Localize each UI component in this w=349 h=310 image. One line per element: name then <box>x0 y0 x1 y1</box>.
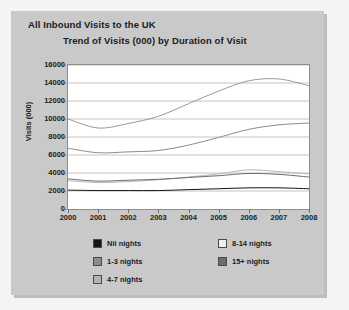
legend-label: 1-3 nights <box>107 258 142 266</box>
x-axis-tick <box>189 209 190 213</box>
x-axis-tick-label: 2006 <box>240 213 257 222</box>
x-axis-tick <box>219 209 220 213</box>
series-line <box>68 188 309 191</box>
x-axis-tick-label: 2000 <box>60 213 77 222</box>
y-axis-tick <box>61 155 66 156</box>
y-axis-tick <box>61 137 66 138</box>
screenshot-root: All Inbound Visits to the UK Trend of Vi… <box>0 0 349 310</box>
x-axis-tick-label: 2007 <box>271 213 288 222</box>
series-lines <box>68 65 309 209</box>
x-axis-tick-label: 2003 <box>150 213 167 222</box>
x-axis-tick-labels: 200020012002200320042005200620072008 <box>67 213 310 227</box>
series-line <box>68 79 309 129</box>
y-axis-tick <box>61 209 66 210</box>
x-axis-tick <box>279 209 280 213</box>
legend-swatch <box>93 257 102 266</box>
legend-item[interactable]: 1-3 nights <box>93 257 142 266</box>
x-axis-tick-label: 2002 <box>120 213 137 222</box>
x-axis-tick-label: 2004 <box>180 213 197 222</box>
chart-legend: Nil nights1-3 nights4-7 nights8-14 night… <box>11 233 324 291</box>
y-axis-tick <box>61 119 66 120</box>
legend-swatch <box>93 239 102 248</box>
x-axis-tick-label: 2008 <box>301 213 318 222</box>
legend-label: 15+ nights <box>232 258 269 266</box>
legend-swatch <box>218 239 227 248</box>
y-axis-tick <box>61 83 66 84</box>
x-axis-tick <box>309 209 310 213</box>
legend-label: 4-7 nights <box>107 276 142 284</box>
legend-item[interactable]: 4-7 nights <box>93 275 142 284</box>
chart-panel: All Inbound Visits to the UK Trend of Vi… <box>11 11 324 295</box>
y-axis-tick <box>61 173 66 174</box>
series-line <box>68 173 309 181</box>
x-axis-tick <box>98 209 99 213</box>
y-axis-tick-labels: 0200040006000800010000120001400016000 <box>21 39 65 224</box>
legend-swatch <box>218 257 227 266</box>
legend-label: Nil nights <box>107 240 141 248</box>
x-axis-tick-label: 2005 <box>210 213 227 222</box>
x-axis-tick <box>128 209 129 213</box>
x-axis-tick <box>158 209 159 213</box>
y-axis-tick <box>61 101 66 102</box>
legend-item[interactable]: 8-14 nights <box>218 239 272 248</box>
x-axis-tick <box>249 209 250 213</box>
plot-region <box>67 64 310 210</box>
y-axis-tick <box>61 65 66 66</box>
x-axis-tick <box>68 209 69 213</box>
legend-item[interactable]: Nil nights <box>93 239 141 248</box>
series-line <box>68 170 309 183</box>
legend-item[interactable]: 15+ nights <box>218 257 269 266</box>
y-axis-tick <box>61 191 66 192</box>
page-title: All Inbound Visits to the UK <box>28 19 156 30</box>
chart-area: Visits (000) 020004000600080001000012000… <box>11 39 324 224</box>
legend-swatch <box>93 275 102 284</box>
x-axis-tick-label: 2001 <box>90 213 107 222</box>
legend-label: 8-14 nights <box>232 240 272 248</box>
